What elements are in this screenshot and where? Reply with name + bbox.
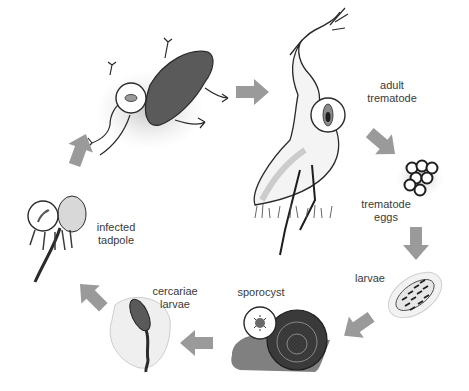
frog-leg — [108, 62, 116, 75]
sporocyst-body — [255, 318, 265, 328]
label-sporocyst: sporocyst — [225, 286, 297, 299]
label-line: infected — [86, 221, 146, 234]
heron-illustration — [254, 8, 348, 255]
label-line: tadpole — [86, 234, 146, 247]
egg-cluster-illustration — [396, 158, 444, 198]
label-infected-tadpole: infected tadpole — [86, 221, 146, 247]
label-line: larvae — [345, 272, 395, 285]
label-cercariae-larvae: cercariae larvae — [142, 285, 208, 311]
label-adult-trematode: adult trematode — [356, 79, 428, 105]
label-line: larvae — [142, 298, 208, 311]
frog-leg — [205, 88, 228, 102]
cercaria-tail — [146, 330, 148, 372]
egg — [415, 185, 426, 196]
snail-illustration — [231, 307, 330, 372]
tadpole-tail — [35, 228, 60, 282]
label-line: cercariae — [142, 285, 208, 298]
egg — [422, 173, 433, 184]
label-line: trematode — [356, 92, 428, 105]
arrow-larvae-to-snail — [337, 306, 379, 346]
label-line: adult — [356, 79, 428, 92]
metacercaria-cyst — [125, 95, 137, 102]
label-line: eggs — [350, 211, 422, 224]
frog-illustration — [88, 38, 228, 155]
tadpole-head — [58, 196, 86, 232]
tadpole-parasite-inset — [28, 201, 58, 231]
marsh-grass — [255, 204, 332, 218]
life-cycle-diagram: adult trematode trematode eggs larvae sp… — [0, 0, 469, 391]
arrow-frog-to-heron — [236, 79, 269, 105]
tadpole-illustration — [28, 196, 86, 282]
label-line: sporocyst — [225, 286, 297, 299]
arrow-heron-to-eggs — [361, 123, 403, 164]
frog-leg — [164, 38, 172, 58]
label-larvae: larvae — [345, 272, 395, 285]
arrow-eggs-to-larvae — [403, 227, 429, 260]
arrow-cercariae-to-tadpole — [71, 275, 113, 317]
arrow-snail-to-cercariae — [180, 330, 213, 356]
label-trematode-eggs: trematode eggs — [350, 198, 422, 224]
arrow-tadpole-to-frog — [62, 130, 98, 170]
adult-trematode-core — [326, 112, 331, 122]
label-line: trematode — [350, 198, 422, 211]
illustration-layer — [0, 0, 469, 391]
